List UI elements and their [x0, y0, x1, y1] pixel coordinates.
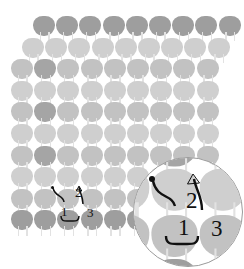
- cell-body: [195, 16, 217, 36]
- cell-body: [45, 38, 67, 58]
- cell-body: [208, 38, 230, 58]
- cell-body: [11, 167, 33, 187]
- lattice-cell: [81, 102, 103, 122]
- cell-body: [81, 146, 103, 166]
- lattice-cell: [92, 38, 114, 58]
- lattice-cell: [197, 59, 219, 79]
- cell-body: [79, 16, 101, 36]
- lattice-cell: [11, 124, 33, 144]
- inset-label-1: 1: [178, 216, 190, 239]
- cell-body: [150, 102, 172, 122]
- lattice-cell: [208, 38, 230, 58]
- cell-body: [219, 16, 241, 36]
- leader-line: [53, 188, 64, 202]
- cell-leg: [18, 226, 19, 235]
- lattice-cell: [81, 124, 103, 144]
- cell-body: [173, 102, 195, 122]
- lattice-cell: [11, 146, 33, 166]
- cell-body: [68, 38, 90, 58]
- cell-body: [11, 189, 33, 209]
- cell-leg: [223, 54, 224, 63]
- cell-body: [34, 146, 56, 166]
- lattice-cell: [127, 81, 149, 101]
- cell-body: [172, 16, 194, 36]
- lattice-cell: [173, 102, 195, 122]
- cell-body: [57, 59, 79, 79]
- lattice-cell: [45, 38, 67, 58]
- cell-body: [197, 81, 219, 101]
- lattice-cell: [103, 16, 125, 36]
- lattice-cell: [195, 16, 217, 36]
- cell-body: [81, 124, 103, 144]
- cell-body: [104, 146, 126, 166]
- lattice-cell: [81, 146, 103, 166]
- cell-body: [127, 59, 149, 79]
- lattice-cell: [184, 38, 206, 58]
- cell-body: [173, 59, 195, 79]
- cell-body: [197, 124, 219, 144]
- lattice-cell: [57, 59, 79, 79]
- lattice-cell: [197, 102, 219, 122]
- lattice-cell: [34, 81, 56, 101]
- cell-body: [197, 59, 219, 79]
- cell-body: [126, 16, 148, 36]
- cell-body: [149, 16, 171, 36]
- lattice-cell: [149, 16, 171, 36]
- cell-body: [115, 38, 137, 58]
- lattice-cell: [138, 38, 160, 58]
- cell-body: [92, 38, 114, 58]
- cell-body: [11, 102, 33, 122]
- lattice-cell: [81, 81, 103, 101]
- lattice-cell: [34, 59, 56, 79]
- lattice-cell: [79, 16, 101, 36]
- lattice-cell: [150, 124, 172, 144]
- lattice-cell: [57, 102, 79, 122]
- cell-body: [11, 81, 33, 101]
- cell-body: [81, 81, 103, 101]
- cell-body: [150, 124, 172, 144]
- inset-leader-line: [153, 181, 175, 206]
- cell-body: [173, 81, 195, 101]
- lattice-cell: [161, 38, 183, 58]
- lattice-cell: [11, 59, 33, 79]
- cell-body: [104, 124, 126, 144]
- cell-body: [184, 38, 206, 58]
- cell-body: [57, 102, 79, 122]
- cell-body: [11, 210, 33, 230]
- cell-body: [22, 38, 44, 58]
- cell-body: [127, 102, 149, 122]
- cell-body: [150, 81, 172, 101]
- cell-body: [150, 59, 172, 79]
- lattice-cell: [104, 102, 126, 122]
- cell-body: [34, 81, 56, 101]
- lattice-cell: [11, 210, 33, 230]
- cell-body: [81, 59, 103, 79]
- lattice-cell: [104, 146, 126, 166]
- inset-label-2: 2: [186, 189, 198, 212]
- label-3: 3: [87, 206, 94, 219]
- cell-body: [33, 16, 55, 36]
- lattice-cell: [34, 102, 56, 122]
- lattice-cell: [127, 102, 149, 122]
- cell-body: [104, 81, 126, 101]
- lattice-cell: [104, 59, 126, 79]
- lattice-cell: [57, 124, 79, 144]
- cell-body: [138, 38, 160, 58]
- lattice-cell: [150, 81, 172, 101]
- cell-body: [56, 16, 78, 36]
- lattice-cell: [68, 38, 90, 58]
- cell-body: [57, 124, 79, 144]
- inset-label-3: 3: [211, 217, 223, 240]
- lattice-cell: [197, 81, 219, 101]
- lattice-cell: [172, 16, 194, 36]
- lattice-cell: [173, 59, 195, 79]
- cell-leg: [26, 226, 27, 235]
- lattice-cell: [56, 16, 78, 36]
- cell-body: [173, 124, 195, 144]
- lattice-cell: [34, 124, 56, 144]
- lattice-cell: [173, 124, 195, 144]
- cell-body: [81, 102, 103, 122]
- lattice-cell: [150, 59, 172, 79]
- cell-body: [127, 81, 149, 101]
- cell-body: [11, 146, 33, 166]
